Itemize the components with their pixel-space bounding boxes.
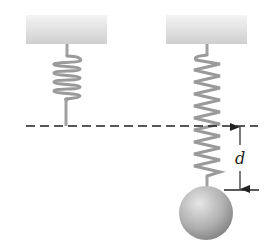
left-ceiling-block xyxy=(26,15,107,44)
spring-diagram: d xyxy=(0,0,277,249)
right-spring-coils xyxy=(194,55,220,176)
displacement-label: d xyxy=(235,149,245,168)
hanging-ball xyxy=(179,186,233,240)
right-spring-assembly xyxy=(166,15,247,240)
left-spring-assembly xyxy=(26,15,107,126)
right-ceiling-block xyxy=(166,15,247,44)
left-spring-coils xyxy=(54,56,81,100)
displacement-indicator: d xyxy=(224,127,259,190)
